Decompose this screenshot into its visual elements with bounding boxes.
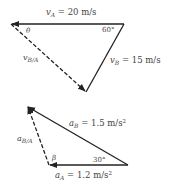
vB-label: vB = 15 m/s <box>110 55 161 66</box>
angle-60-label: 60° <box>102 26 114 34</box>
aBA-vector <box>28 107 49 165</box>
aB-label: aB = 1.5 m/s2 <box>69 118 126 129</box>
vA-label: vA = 20 m/s <box>46 7 97 18</box>
theta-label: θ <box>26 27 31 35</box>
vector-diagrams: vA = 20 m/s θ 60° vB/A vB = 15 m/s aB = … <box>0 0 169 187</box>
acceleration-triangle: aB = 1.5 m/s2 aB/A β 30° aA = 1.2 m/s2 <box>17 107 128 181</box>
aBA-label: aB/A <box>17 134 33 144</box>
beta-label: β <box>51 154 56 162</box>
velocity-triangle: vA = 20 m/s θ 60° vB/A vB = 15 m/s <box>11 7 161 92</box>
vBA-label: vB/A <box>23 53 39 63</box>
aA-label: aA = 1.2 m/s2 <box>55 170 112 181</box>
angle-30-label: 30° <box>93 156 105 164</box>
aB-vector <box>28 107 128 165</box>
